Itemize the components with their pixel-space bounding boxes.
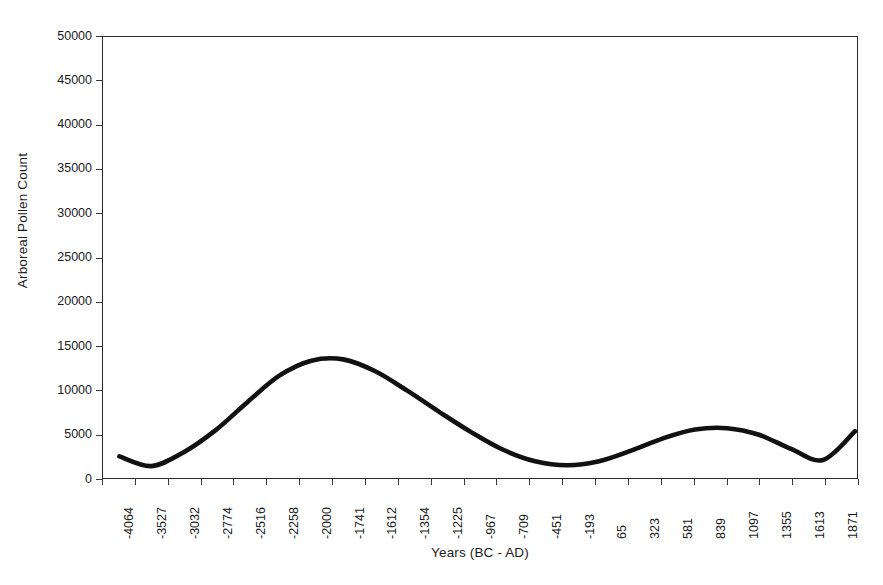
x-axis-tick-label: -967 xyxy=(485,481,498,539)
y-axis-tick-label: 35000 xyxy=(32,162,92,175)
y-axis-tick-label: 45000 xyxy=(32,74,92,87)
x-axis-tick-label: 65 xyxy=(616,481,629,539)
y-axis-tick-label: 25000 xyxy=(32,251,92,264)
y-axis-title: Arboreal Pollen Count xyxy=(15,11,30,431)
x-axis-tick-label: -451 xyxy=(551,481,564,539)
x-axis-tick-label: -193 xyxy=(584,481,597,539)
x-axis-tick-label: 1097 xyxy=(748,481,761,539)
y-axis-tick-labels: 0500010000150002000025000300003500040000… xyxy=(30,36,92,479)
x-axis-tick-label: -1225 xyxy=(452,481,465,539)
x-axis-tick-label: -2258 xyxy=(288,481,301,539)
x-axis-tick-label: -2000 xyxy=(321,481,334,539)
chart-figure: Arboreal Pollen Count 050001000015000200… xyxy=(0,0,883,585)
x-axis-tick-label: -3527 xyxy=(156,481,169,539)
x-axis-title: Years (BC - AD) xyxy=(102,545,858,560)
y-axis-tick-label: 40000 xyxy=(32,118,92,131)
x-axis-tick-label: -3032 xyxy=(189,481,202,539)
x-axis-tick-label: -1354 xyxy=(419,481,432,539)
x-axis-tick-label: 1613 xyxy=(814,481,827,539)
y-axis-tick-label: 10000 xyxy=(32,384,92,397)
y-axis-tick-label: 5000 xyxy=(32,428,92,441)
x-axis-tick-label: 1871 xyxy=(847,481,860,539)
x-axis-tick-label: -2774 xyxy=(222,481,235,539)
x-axis-tick-label: 839 xyxy=(715,481,728,539)
x-axis-tick-label: 1355 xyxy=(781,481,794,539)
x-axis-tick-label: -709 xyxy=(518,481,531,539)
x-axis-tick-label: 323 xyxy=(649,481,662,539)
x-axis-tick-label: -1741 xyxy=(354,481,367,539)
x-axis-tick-label: -4064 xyxy=(123,481,136,539)
pollen-count-line xyxy=(119,358,855,466)
series-canvas xyxy=(103,37,857,478)
x-axis-tick-label: -2516 xyxy=(255,481,268,539)
y-axis-tick-label: 30000 xyxy=(32,207,92,220)
y-axis-tick-label: 20000 xyxy=(32,295,92,308)
y-axis-tick-label: 0 xyxy=(32,473,92,486)
y-axis-tick-label: 50000 xyxy=(32,30,92,43)
x-axis-tick-label: 581 xyxy=(682,481,695,539)
plot-area xyxy=(102,36,858,479)
x-axis-tick-labels: -4064-3527-3032-2774-2516-2258-2000-1741… xyxy=(102,483,858,541)
x-axis-tick-label: -1612 xyxy=(386,481,399,539)
y-axis-tick-label: 15000 xyxy=(32,340,92,353)
